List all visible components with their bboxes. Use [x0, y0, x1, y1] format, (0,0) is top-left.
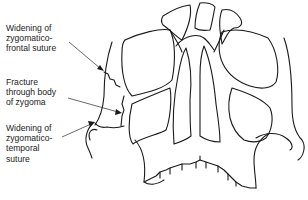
left-orbit [122, 30, 175, 96]
arrow-zygomatico-frontal [69, 42, 101, 69]
arrowhead-icon [97, 65, 104, 71]
zygoma-fracture-line [121, 96, 124, 126]
zygomatic-arch-hook [89, 129, 97, 140]
zygomatic-arch-left [95, 123, 124, 128]
left-nasal-cavity [173, 48, 191, 144]
zygomatic-arch-right [256, 134, 292, 151]
right-lateral-outline [284, 38, 304, 160]
coronoid-line [86, 123, 93, 158]
skull-outline [86, 3, 304, 188]
pointer-arrows [62, 42, 122, 137]
left-nasal-bone [162, 5, 191, 40]
alveolar-ridge [144, 160, 256, 188]
right-nasal-bone [220, 9, 242, 44]
skull-diagram [0, 0, 308, 200]
right-nasal-cavity [200, 46, 220, 142]
nasal-arch-inner [176, 35, 214, 50]
left-lateral-rim [95, 42, 112, 125]
left-maxillary-sinus [129, 88, 171, 144]
central-nasal-bone [195, 3, 215, 31]
zygomatico-frontal-suture [104, 72, 120, 87]
nasal-arch-outer [170, 30, 224, 52]
arrow-body-of-zygoma [68, 98, 118, 112]
right-orbit [219, 30, 278, 88]
arrowhead-icon [115, 109, 122, 115]
